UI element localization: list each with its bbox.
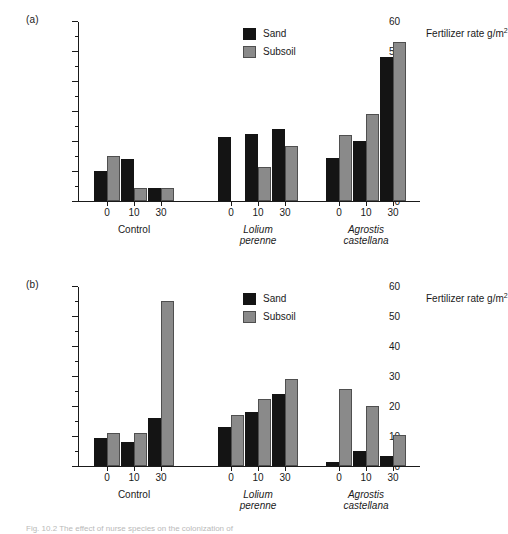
figure-caption: Fig. 10.2 The effect of nurse species on… — [26, 524, 456, 534]
group-label: Control — [118, 489, 150, 500]
x-tick-label: 30 — [279, 472, 290, 483]
x-tick-label: 10 — [252, 207, 263, 218]
bar-subsoil — [258, 167, 271, 202]
bar-sand — [218, 427, 231, 466]
x-tick-label: 30 — [387, 207, 398, 218]
x-tick — [285, 202, 286, 206]
bars-b — [78, 286, 420, 466]
bar-sand — [218, 137, 231, 202]
x-tick — [231, 202, 232, 206]
x-tick-label: 30 — [155, 472, 166, 483]
x-tick-label: 10 — [360, 472, 371, 483]
x-tick-label: 30 — [279, 207, 290, 218]
bar-sand — [353, 451, 366, 466]
bar-sand — [148, 188, 161, 202]
bar-sand — [121, 442, 134, 466]
bar-sand — [380, 456, 393, 466]
bar-subsoil — [107, 433, 120, 466]
x-tick-label: 30 — [155, 207, 166, 218]
bar-sand — [326, 158, 339, 202]
x-axis-title-text-b: Fertilizer rate g/m — [426, 293, 504, 304]
x-tick-label: 10 — [360, 207, 371, 218]
x-tick — [107, 467, 108, 471]
panel-label-a: (a) — [26, 14, 39, 25]
x-axis-title-exponent-a: 2 — [504, 27, 508, 34]
bar-sand — [245, 134, 258, 202]
bar-sand — [380, 57, 393, 201]
x-axis-title-text-a: Fertilizer rate g/m — [426, 28, 504, 39]
bar-subsoil — [285, 379, 298, 466]
x-tick-label: 10 — [128, 207, 139, 218]
bar-subsoil — [366, 114, 379, 201]
bar-sand — [272, 394, 285, 466]
x-tick-label: 0 — [228, 207, 234, 218]
x-tick-label: 0 — [336, 472, 342, 483]
x-axis-title-exponent-b: 2 — [504, 292, 508, 299]
x-tick — [366, 202, 367, 206]
x-tick-label: 0 — [104, 472, 110, 483]
panel-label-b: (b) — [26, 279, 39, 290]
x-tick — [231, 467, 232, 471]
bar-subsoil — [258, 399, 271, 467]
plot-area-b: 0102030405060 01030Control01030Loliumper… — [78, 287, 420, 467]
bar-subsoil — [393, 435, 406, 466]
x-tick-label: 10 — [128, 472, 139, 483]
bar-sand — [353, 141, 366, 201]
group-label: Agrostiscastellana — [343, 224, 388, 246]
y-tick-major — [72, 466, 78, 467]
bar-subsoil — [285, 146, 298, 202]
x-axis-b — [78, 466, 420, 467]
x-tick — [134, 202, 135, 206]
bar-subsoil — [231, 415, 244, 466]
bars-a — [78, 21, 420, 201]
x-tick — [366, 467, 367, 471]
bar-sand — [148, 418, 161, 466]
group-label: Control — [118, 224, 150, 235]
x-axis-title-a: Fertilizer rate g/m2 — [426, 27, 508, 39]
group-label: Loliumperenne — [240, 224, 277, 246]
x-tick-label: 0 — [336, 207, 342, 218]
x-tick — [258, 202, 259, 206]
bar-sand — [94, 438, 107, 466]
group-label: Loliumperenne — [240, 489, 277, 511]
bar-subsoil — [161, 188, 174, 202]
group-label: Agrostiscastellana — [343, 489, 388, 511]
x-tick-label: 30 — [387, 472, 398, 483]
x-tick — [258, 467, 259, 471]
bar-subsoil — [393, 42, 406, 201]
bar-subsoil — [366, 406, 379, 466]
bar-sand — [245, 412, 258, 466]
bar-sand — [121, 159, 134, 201]
bar-subsoil — [134, 188, 147, 202]
x-tick-label: 10 — [252, 472, 263, 483]
bar-subsoil — [107, 156, 120, 201]
x-tick — [393, 467, 394, 471]
chart-panel-b: (b) Sand Subsoil Percentage cover 010203… — [0, 265, 471, 527]
x-tick — [393, 202, 394, 206]
bar-subsoil — [339, 135, 352, 201]
bar-sand — [94, 171, 107, 201]
bar-subsoil — [161, 301, 174, 466]
bar-sand — [272, 129, 285, 201]
x-tick — [285, 467, 286, 471]
x-tick-label: 0 — [228, 472, 234, 483]
bar-subsoil — [339, 389, 352, 466]
y-tick-major — [72, 201, 78, 202]
x-axis-a — [78, 201, 420, 202]
x-tick — [107, 202, 108, 206]
bar-subsoil — [134, 433, 147, 466]
x-axis-title-b: Fertilizer rate g/m2 — [426, 292, 508, 304]
x-tick-label: 0 — [104, 207, 110, 218]
x-tick — [134, 467, 135, 471]
x-tick — [339, 202, 340, 206]
x-tick — [161, 467, 162, 471]
plot-area-a: 0102030405060 01030Control01030Loliumper… — [78, 22, 420, 202]
x-tick — [339, 467, 340, 471]
bar-sand — [326, 462, 339, 466]
x-tick — [161, 202, 162, 206]
chart-panel-a: (a) Sand Subsoil Percentage cover 010203… — [0, 0, 471, 262]
